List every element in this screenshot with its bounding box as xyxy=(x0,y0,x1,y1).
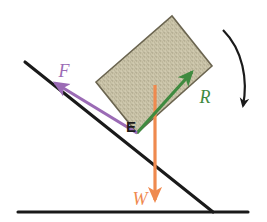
friction-label: F xyxy=(58,61,71,81)
clockwise-rotation-arrow xyxy=(223,30,245,106)
normal-reaction-label: R xyxy=(199,87,211,107)
contact-point-label: E xyxy=(126,118,136,135)
force-diagram-canvas: F R W E xyxy=(0,0,267,222)
force-diagram: F R W E xyxy=(0,0,267,222)
weight-label: W xyxy=(133,189,150,209)
